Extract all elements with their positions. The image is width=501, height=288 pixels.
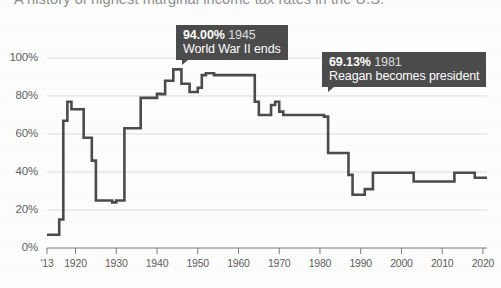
chart-screenshot: A history of highest marginal income tax… [0, 0, 501, 288]
annotation-value: 69.13% [329, 55, 371, 69]
annotation-description: Reagan becomes president [329, 69, 479, 83]
annotation-year: 1945 [228, 28, 255, 42]
x-axis-label: 2020 [472, 257, 495, 269]
y-axis-label: 100% [2, 51, 38, 63]
x-axis-label: 1990 [349, 257, 372, 269]
x-axis-label: 1980 [309, 257, 332, 269]
x-axis-label: 1970 [268, 257, 291, 269]
y-axis-label: 40% [2, 165, 38, 177]
x-axis-label: '13 [40, 257, 53, 269]
y-axis-label: 60% [2, 127, 38, 139]
annotation-value-line: 69.13% 1981 [329, 55, 479, 69]
annotation-value-line: 94.00% 1945 [183, 28, 281, 42]
y-axis-label: 0% [2, 241, 38, 253]
annotation-reagan: 69.13% 1981 Reagan becomes president [322, 52, 486, 87]
x-axis-label: 1960 [227, 257, 250, 269]
x-axis-label: 2000 [390, 257, 413, 269]
y-axis-label: 20% [2, 203, 38, 215]
annotation-description: World War II ends [183, 42, 281, 56]
x-axis-label: 1950 [186, 257, 209, 269]
annotation-tail [182, 60, 188, 65]
annotation-tail [328, 87, 334, 92]
x-axis-label: 1940 [146, 257, 169, 269]
x-axis-label: 1920 [64, 257, 87, 269]
x-axis-label: 1930 [105, 257, 128, 269]
annotation-world-war-ii: 94.00% 1945 World War II ends [176, 25, 288, 60]
x-axis-label: 2010 [431, 257, 454, 269]
annotation-year: 1981 [374, 55, 401, 69]
x-axis-ticks [47, 248, 483, 254]
annotation-value: 94.00% [183, 28, 225, 42]
y-axis-label: 80% [2, 89, 38, 101]
